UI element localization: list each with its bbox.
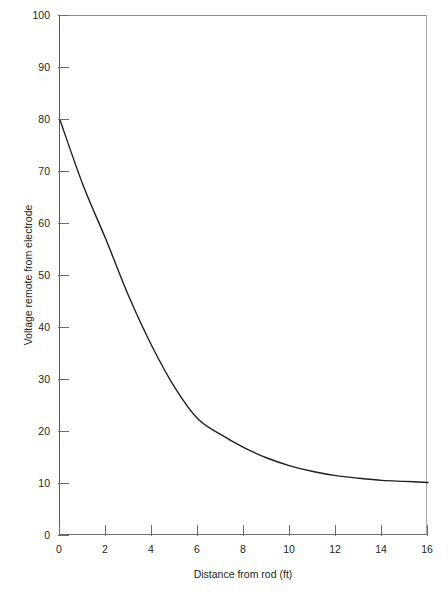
y-axis-tick (58, 119, 69, 120)
voltage-decay-curve (60, 120, 428, 482)
x-axis-tick (243, 525, 244, 536)
chart-figure: 0102030405060708090100 0246810121416 Dis… (0, 0, 448, 594)
x-axis-tick (427, 525, 428, 536)
y-axis-tick (58, 483, 69, 484)
x-axis-tick (105, 525, 106, 536)
x-axis-tick (381, 525, 382, 536)
x-axis-tick-label: 4 (136, 544, 166, 555)
y-axis-tick (58, 327, 69, 328)
y-axis-tick (58, 431, 69, 432)
y-axis-tick (58, 379, 69, 380)
x-axis-tick (59, 525, 60, 536)
data-curve-svg (60, 16, 428, 536)
x-axis-tick-label: 16 (412, 544, 442, 555)
plot-area (59, 15, 427, 535)
y-axis-tick (58, 275, 69, 276)
x-axis-tick-label: 14 (366, 544, 396, 555)
x-axis-tick-label: 0 (44, 544, 74, 555)
x-axis-tick-label: 10 (274, 544, 304, 555)
x-axis-tick-label: 8 (228, 544, 258, 555)
x-axis-tick (289, 525, 290, 536)
y-axis-title: Voltage remote from electrode (22, 15, 36, 535)
y-axis-tick (58, 67, 69, 68)
x-axis-tick-label: 6 (182, 544, 212, 555)
y-axis-tick (58, 223, 69, 224)
x-axis-tick (151, 525, 152, 536)
x-axis-tick-label: 2 (90, 544, 120, 555)
x-axis-tick (197, 525, 198, 536)
y-axis-tick (58, 171, 69, 172)
y-axis-tick (58, 15, 69, 16)
x-axis-tick (335, 525, 336, 536)
x-axis-title: Distance from rod (ft) (59, 568, 427, 580)
x-axis-tick-label: 12 (320, 544, 350, 555)
